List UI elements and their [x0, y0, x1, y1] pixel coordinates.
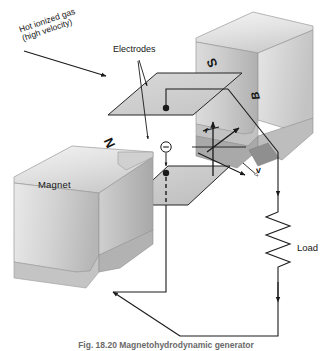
figure-caption: Fig. 18.20 Magnetohydrodynamic generator — [0, 341, 332, 351]
gas-flow-arrow — [24, 51, 106, 76]
circuit-return-diagonal — [113, 292, 180, 336]
magnet-label: Magnet — [38, 180, 71, 190]
lower-electrode-contact — [163, 170, 169, 176]
force-vector-label: f — [205, 127, 208, 135]
lower-magnet-front-face — [14, 183, 99, 272]
electrodes-label: Electrodes — [113, 45, 156, 54]
mhd-generator-diagram — [0, 0, 332, 351]
upper-electrode-contact — [163, 105, 169, 111]
figure-canvas: Hot ionized gas (high velocity) Electrod… — [0, 0, 332, 351]
lower-magnet-pole-block — [14, 146, 153, 288]
circuit-bottom-right — [180, 302, 278, 336]
load-label: Load — [297, 243, 318, 253]
